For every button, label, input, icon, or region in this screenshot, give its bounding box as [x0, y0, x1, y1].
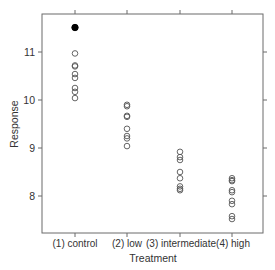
- data-point: [177, 149, 183, 155]
- data-point: [124, 143, 130, 149]
- data-point: [72, 51, 78, 57]
- x-tick-label: (3) intermediate: [146, 238, 216, 249]
- x-axis: (1) control(2) low(3) intermediate(4) hi…: [52, 10, 249, 249]
- data-point: [72, 75, 78, 81]
- data-point: [124, 126, 130, 132]
- x-tick-label: (1) control: [52, 238, 97, 249]
- data-point: [72, 95, 78, 101]
- x-axis-label: Treatment: [129, 252, 177, 264]
- x-tick-label: (2) low: [112, 238, 143, 249]
- y-tick-label: 8: [29, 190, 35, 202]
- data-point: [72, 89, 78, 95]
- data-point: [229, 201, 235, 207]
- data-point: [177, 175, 183, 181]
- data-points: [72, 24, 235, 222]
- y-axis-label: Response: [8, 100, 20, 147]
- highlighted-data-point: [72, 24, 78, 30]
- x-tick-label: (4) high: [216, 238, 250, 249]
- y-tick-label: 9: [29, 142, 35, 154]
- scatter-chart: 891011 (1) control(2) low(3) intermediat…: [0, 0, 275, 270]
- data-point: [177, 169, 183, 175]
- y-tick-label: 10: [23, 94, 35, 106]
- y-tick-label: 11: [24, 46, 35, 58]
- plot-frame: [42, 14, 263, 233]
